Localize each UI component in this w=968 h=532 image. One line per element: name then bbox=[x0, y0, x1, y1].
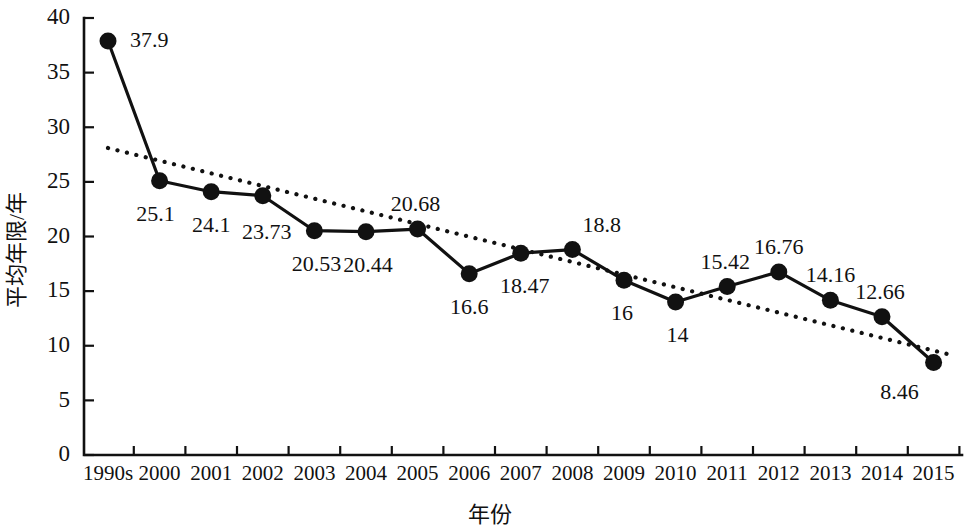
data-point-marker bbox=[409, 221, 426, 238]
data-value-label: 20.44 bbox=[343, 252, 393, 277]
data-point-marker bbox=[461, 265, 478, 282]
data-point-marker bbox=[100, 32, 117, 49]
data-point-marker bbox=[151, 172, 168, 189]
y-tick-label: 25 bbox=[47, 168, 70, 193]
data-point-marker bbox=[874, 308, 891, 325]
data-value-label: 24.1 bbox=[192, 212, 231, 237]
x-axis-ticks bbox=[134, 446, 960, 455]
y-tick-label: 10 bbox=[47, 332, 70, 357]
data-value-label: 16.76 bbox=[754, 234, 804, 259]
line-chart-canvas: 0510152025303540 1990s200020012002200320… bbox=[0, 0, 968, 532]
x-tick-label: 2010 bbox=[655, 461, 697, 485]
data-point-marker bbox=[925, 354, 942, 371]
data-value-label: 16 bbox=[611, 300, 633, 325]
data-point-marker bbox=[616, 272, 633, 289]
y-axis-tick-labels: 0510152025303540 bbox=[47, 4, 70, 466]
x-tick-label: 2004 bbox=[345, 461, 388, 485]
y-tick-label: 5 bbox=[59, 387, 71, 412]
x-tick-label: 2012 bbox=[758, 461, 800, 485]
data-value-label: 18.8 bbox=[582, 212, 621, 237]
y-tick-label: 15 bbox=[47, 277, 70, 302]
data-value-label: 14 bbox=[667, 322, 689, 347]
y-tick-label: 40 bbox=[47, 4, 70, 29]
x-tick-label: 2003 bbox=[293, 461, 335, 485]
x-tick-label: 2013 bbox=[809, 461, 851, 485]
x-tick-label: 2007 bbox=[500, 461, 542, 485]
y-tick-label: 35 bbox=[47, 59, 70, 84]
data-value-label: 20.53 bbox=[292, 251, 342, 276]
data-value-label: 15.42 bbox=[700, 249, 750, 274]
y-axis-ticks bbox=[84, 18, 94, 455]
data-point-marker bbox=[254, 187, 271, 204]
x-axis-tick-labels: 1990s20002001200220032004200520062007200… bbox=[83, 461, 955, 485]
data-point-marker bbox=[358, 223, 375, 240]
data-point-marker bbox=[203, 183, 220, 200]
data-value-label: 18.47 bbox=[500, 273, 550, 298]
x-tick-label: 2006 bbox=[448, 461, 490, 485]
data-point-marker bbox=[512, 245, 529, 262]
y-tick-label: 0 bbox=[59, 441, 71, 466]
data-point-marker bbox=[719, 278, 736, 295]
data-point-marker bbox=[306, 222, 323, 239]
y-tick-label: 30 bbox=[47, 114, 70, 139]
data-value-label: 16.6 bbox=[450, 294, 489, 319]
data-value-label: 8.46 bbox=[880, 379, 919, 404]
x-tick-label: 2000 bbox=[139, 461, 181, 485]
x-tick-label: 2001 bbox=[190, 461, 232, 485]
x-tick-label: 2002 bbox=[242, 461, 284, 485]
x-tick-label: 2005 bbox=[397, 461, 439, 485]
x-tick-label: 1990s bbox=[83, 461, 133, 485]
y-tick-label: 20 bbox=[47, 223, 70, 248]
x-tick-label: 2008 bbox=[551, 461, 593, 485]
data-value-label: 14.16 bbox=[806, 262, 856, 287]
chart-figure: 0510152025303540 1990s200020012002200320… bbox=[0, 0, 968, 532]
x-tick-label: 2011 bbox=[707, 461, 748, 485]
data-value-label: 20.68 bbox=[391, 191, 441, 216]
data-point-marker bbox=[822, 292, 839, 309]
x-tick-label: 2015 bbox=[913, 461, 955, 485]
data-value-label: 12.66 bbox=[855, 279, 905, 304]
data-point-marker bbox=[770, 263, 787, 280]
data-value-label: 23.73 bbox=[242, 219, 292, 244]
data-value-labels: 37.925.124.123.7320.5320.4420.6816.618.4… bbox=[130, 27, 919, 404]
x-tick-label: 2009 bbox=[603, 461, 645, 485]
data-value-label: 25.1 bbox=[136, 201, 175, 226]
x-axis-title: 年份 bbox=[468, 502, 512, 527]
y-axis-title: 平均年限/年 bbox=[4, 192, 29, 308]
data-point-marker bbox=[667, 294, 684, 311]
data-series-line bbox=[108, 41, 934, 363]
data-point-marker bbox=[564, 241, 581, 258]
data-value-label: 37.9 bbox=[130, 27, 169, 52]
x-tick-label: 2014 bbox=[861, 461, 904, 485]
